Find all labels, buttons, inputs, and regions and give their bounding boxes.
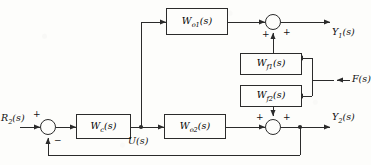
junction-dot-y2 (298, 125, 302, 129)
sign-bottom-right-right-plus: + (283, 113, 291, 122)
summing-junction-top-right[interactable] (265, 14, 281, 30)
block-wo2-label: Wo2(s) (180, 120, 210, 134)
signal-label-f: F(s) (352, 74, 371, 84)
block-wf1-label: Wf1(s) (257, 57, 286, 71)
block-wc[interactable]: Wc(s) (76, 114, 131, 139)
junction-dot-u (139, 125, 143, 129)
sign-top-right-bottom-plus: + (262, 30, 270, 39)
summing-junction-left[interactable] (40, 119, 56, 135)
sign-left-plus: + (33, 110, 41, 119)
sign-bottom-right-left-plus: + (256, 113, 264, 122)
block-wc-label: Wc(s) (91, 120, 117, 134)
summing-junction-bottom-right[interactable] (265, 119, 281, 135)
signal-label-r2: R2(s) (1, 113, 25, 125)
block-wo1[interactable]: Wo1(s) (166, 8, 228, 35)
block-diagram-canvas: Wo1(s) Wf1(s) Wf2(s) Wc(s) Wo2(s) + − + … (0, 0, 371, 165)
block-wo2[interactable]: Wo2(s) (164, 114, 226, 139)
signal-label-y1: Y1(s) (332, 27, 355, 39)
signal-label-u: U(s) (128, 136, 148, 146)
block-wo1-label: Wo1(s) (182, 15, 212, 29)
block-wf2[interactable]: Wf2(s) (240, 85, 302, 107)
sign-top-right-side-plus: + (283, 28, 291, 37)
block-wf2-label: Wf2(s) (257, 89, 286, 103)
sign-left-minus: − (54, 136, 62, 145)
signal-label-y2: Y2(s) (332, 112, 355, 124)
block-wf1[interactable]: Wf1(s) (240, 53, 302, 75)
